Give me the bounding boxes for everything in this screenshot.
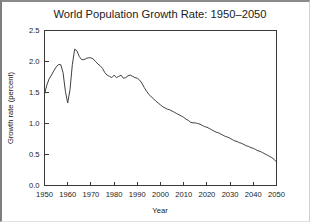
y-axis-tick-labels: 0.00.51.01.52.02.5 (29, 26, 40, 190)
x-tick-label: 2020 (198, 190, 215, 199)
x-tick-label: 2040 (245, 190, 262, 199)
y-tick-label: 2.5 (29, 26, 40, 35)
y-axis-ticks (45, 31, 49, 186)
x-tick-label: 1980 (106, 190, 123, 199)
x-tick-label: 1960 (59, 190, 76, 199)
x-tick-label: 2050 (268, 190, 285, 199)
x-tick-label: 1990 (129, 190, 146, 199)
population-growth-line-chart: World Population Growth Rate: 1950–2050 … (0, 0, 310, 222)
chart-figure: World Population Growth Rate: 1950–2050 … (0, 0, 310, 222)
growth-rate-line (45, 49, 277, 162)
y-axis-label: Growth rate (percent) (6, 71, 15, 144)
x-tick-label: 1950 (36, 190, 53, 199)
y-tick-label: 0.5 (29, 150, 40, 159)
x-tick-label: 2030 (222, 190, 239, 199)
x-tick-label: 2010 (175, 190, 192, 199)
y-tick-label: 2.0 (29, 57, 40, 66)
x-tick-label: 1970 (82, 190, 99, 199)
chart-title: World Population Growth Rate: 1950–2050 (53, 8, 266, 20)
y-tick-label: 1.5 (29, 88, 40, 97)
x-axis-ticks (45, 182, 277, 186)
x-axis-tick-labels: 1950196019701980199020002010202020302040… (36, 190, 285, 199)
y-tick-label: 1.0 (29, 119, 40, 128)
x-tick-label: 2000 (152, 190, 169, 199)
plot-frame (45, 31, 277, 186)
x-axis-label: Year (152, 206, 168, 215)
